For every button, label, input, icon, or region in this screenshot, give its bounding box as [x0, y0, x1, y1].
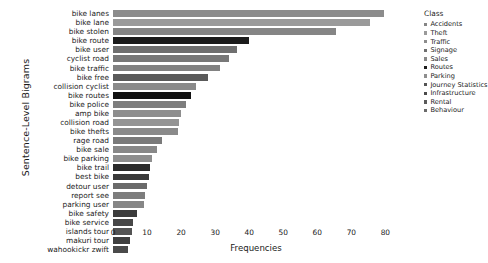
legend-swatch-icon: [424, 109, 427, 112]
bar: [113, 101, 186, 108]
bar-row: [113, 154, 399, 163]
y-axis-tick-label: bike sale: [0, 145, 111, 154]
bar-row: [113, 163, 399, 172]
legend-item-label: Signage: [430, 46, 457, 54]
legend-item[interactable]: Routes: [424, 63, 488, 72]
legend-item-label: Parking: [430, 72, 454, 80]
bar-row: [113, 100, 399, 109]
bar: [113, 155, 152, 162]
legend-item-label: Accidents: [430, 20, 462, 28]
x-axis-tick-label: 20: [176, 228, 185, 237]
bar-row: [113, 191, 399, 200]
y-axis-tick-label: detour user: [0, 181, 111, 190]
bar-row: [113, 181, 399, 190]
legend-item[interactable]: Parking: [424, 72, 488, 81]
bar: [113, 137, 162, 144]
legend-item-label: Infrastructure: [430, 89, 475, 97]
y-axis-tick-label: bike user: [0, 45, 111, 54]
y-axis-tick-labels: bike lanesbike lanebike stolenbike route…: [0, 9, 111, 227]
bar: [113, 92, 191, 99]
legend-item[interactable]: Accidents: [424, 20, 488, 29]
bar-row: [113, 136, 399, 145]
legend-swatch-icon: [424, 49, 427, 52]
legend-swatch-icon: [424, 66, 427, 69]
y-axis-tick-label: bike police: [0, 100, 111, 109]
y-axis-tick-label: bike stolen: [0, 27, 111, 36]
bar: [113, 183, 147, 190]
legend-item-label: Theft: [430, 29, 447, 37]
legend-item[interactable]: Journey Statistics: [424, 80, 488, 89]
y-axis-tick-label: bike route: [0, 36, 111, 45]
y-axis-tick-label: bike safety: [0, 209, 111, 218]
bar-row: [113, 172, 399, 181]
legend-swatch-icon: [424, 92, 427, 95]
y-axis-tick-label: makuri tour: [0, 236, 111, 245]
bar-row: [113, 63, 399, 72]
legend-item[interactable]: Sales: [424, 55, 488, 64]
x-axis-tick-label: 0: [111, 228, 116, 237]
bar: [113, 219, 133, 226]
y-axis-tick-label: bike free: [0, 73, 111, 82]
x-axis-tick-label: 70: [347, 228, 356, 237]
legend-swatch-icon: [424, 40, 427, 43]
bar-row: [113, 45, 399, 54]
legend-item-label: Journey Statistics: [430, 81, 487, 89]
bar-row: [113, 109, 399, 118]
legend-item-label: Behaviour: [430, 106, 463, 114]
x-axis-tick-label: 10: [142, 228, 151, 237]
bar-row: [113, 73, 399, 82]
legend-swatch-icon: [424, 57, 427, 60]
y-axis-tick-label: bike trail: [0, 163, 111, 172]
bar: [113, 210, 137, 217]
bar: [113, 10, 384, 17]
bar-row: [113, 209, 399, 218]
legend-item-label: Sales: [430, 55, 448, 63]
y-axis-tick-label: bike parking: [0, 154, 111, 163]
y-axis-tick-label: islands tour: [0, 227, 111, 236]
y-axis-tick-label: collision cyclist: [0, 82, 111, 91]
y-axis-tick-label: parking user: [0, 200, 111, 209]
bar-row: [113, 82, 399, 91]
legend-swatch-icon: [424, 74, 427, 77]
legend-swatch-icon: [424, 100, 427, 103]
bar-row: [113, 118, 399, 127]
bar: [113, 37, 249, 44]
bar-row: [113, 91, 399, 100]
legend-item-label: Routes: [430, 63, 453, 71]
legend-item-label: Rental: [430, 98, 451, 106]
legend-item[interactable]: Theft: [424, 29, 488, 38]
bar: [113, 65, 220, 72]
y-axis-tick-label: bike thefts: [0, 127, 111, 136]
y-axis-tick-label: amp bike: [0, 109, 111, 118]
bar: [113, 201, 144, 208]
bar-row: [113, 127, 399, 136]
bar-chart-figure: Sentence-Level Bigrams bike lanesbike la…: [0, 0, 488, 263]
x-axis-tick-label: 30: [210, 228, 219, 237]
bar: [113, 19, 370, 26]
bar-row: [113, 9, 399, 18]
y-axis-tick-label: bike service: [0, 218, 111, 227]
bar-row: [113, 18, 399, 27]
legend-item[interactable]: Behaviour: [424, 106, 488, 115]
bar: [113, 174, 149, 181]
legend-item[interactable]: Traffic: [424, 37, 488, 46]
plot-area: [113, 9, 399, 227]
bar-row: [113, 27, 399, 36]
bar: [113, 83, 196, 90]
bar-row: [113, 36, 399, 45]
legend-item[interactable]: Infrastructure: [424, 89, 488, 98]
bar: [113, 119, 179, 126]
y-axis-tick-label: wahookickr zwift: [0, 245, 111, 254]
legend-item[interactable]: Rental: [424, 98, 488, 107]
x-axis-title: Frequencies: [113, 243, 399, 253]
bar: [113, 55, 229, 62]
y-axis-tick-label: bike traffic: [0, 63, 111, 72]
legend-item[interactable]: Signage: [424, 46, 488, 55]
legend-title: Class: [424, 9, 488, 18]
y-axis-tick-label: cyclist road: [0, 54, 111, 63]
bar-row: [113, 54, 399, 63]
bar: [113, 128, 178, 135]
bar: [113, 146, 157, 153]
bar: [113, 110, 181, 117]
bar-row: [113, 200, 399, 209]
